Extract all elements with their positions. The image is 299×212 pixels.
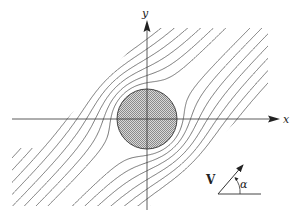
flow-diagram: x y V α [0, 0, 299, 212]
angle-label: α [240, 178, 248, 191]
y-axis-label: y [141, 7, 149, 20]
velocity-label: V [205, 173, 216, 187]
x-axis-label: x [283, 113, 290, 126]
velocity-indicator: V α [205, 165, 261, 194]
angle-arc-arrow-icon [235, 177, 239, 181]
